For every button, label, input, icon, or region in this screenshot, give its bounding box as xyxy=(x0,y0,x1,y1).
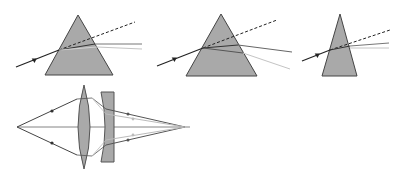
ray-lower-in xyxy=(17,127,77,155)
arrow-upper-out-light xyxy=(132,118,135,121)
arrow-lower-out-dark xyxy=(127,139,130,142)
ray-lower-lens xyxy=(77,155,92,156)
prism-2 xyxy=(186,14,257,76)
prism-1 xyxy=(45,15,113,75)
ray-lower-out-dark xyxy=(106,127,185,145)
optics-diagram xyxy=(0,0,405,180)
arrow-lower-out-light xyxy=(132,134,135,137)
prism-3 xyxy=(322,14,357,76)
arrow-lower-in xyxy=(50,141,53,144)
convex-lens xyxy=(78,85,90,169)
ray-upper-out-dark xyxy=(106,109,185,127)
exit-ray-dark-2 xyxy=(238,45,292,52)
arrow-upper-out-dark xyxy=(127,113,130,116)
ray-lower-out-light xyxy=(106,127,185,140)
exit-ray-light-1 xyxy=(97,47,142,49)
ray-upper-lens xyxy=(77,98,92,99)
ray-upper-in xyxy=(17,99,77,127)
achromatic-doublet-group xyxy=(17,85,190,169)
prism-1-group xyxy=(16,15,142,75)
arrow-upper-in xyxy=(50,109,53,112)
prism-3-group xyxy=(302,14,390,76)
prism-2-group xyxy=(157,14,292,76)
ray-upper-out-light xyxy=(106,114,185,127)
exit-ray-dark-3 xyxy=(350,43,389,46)
